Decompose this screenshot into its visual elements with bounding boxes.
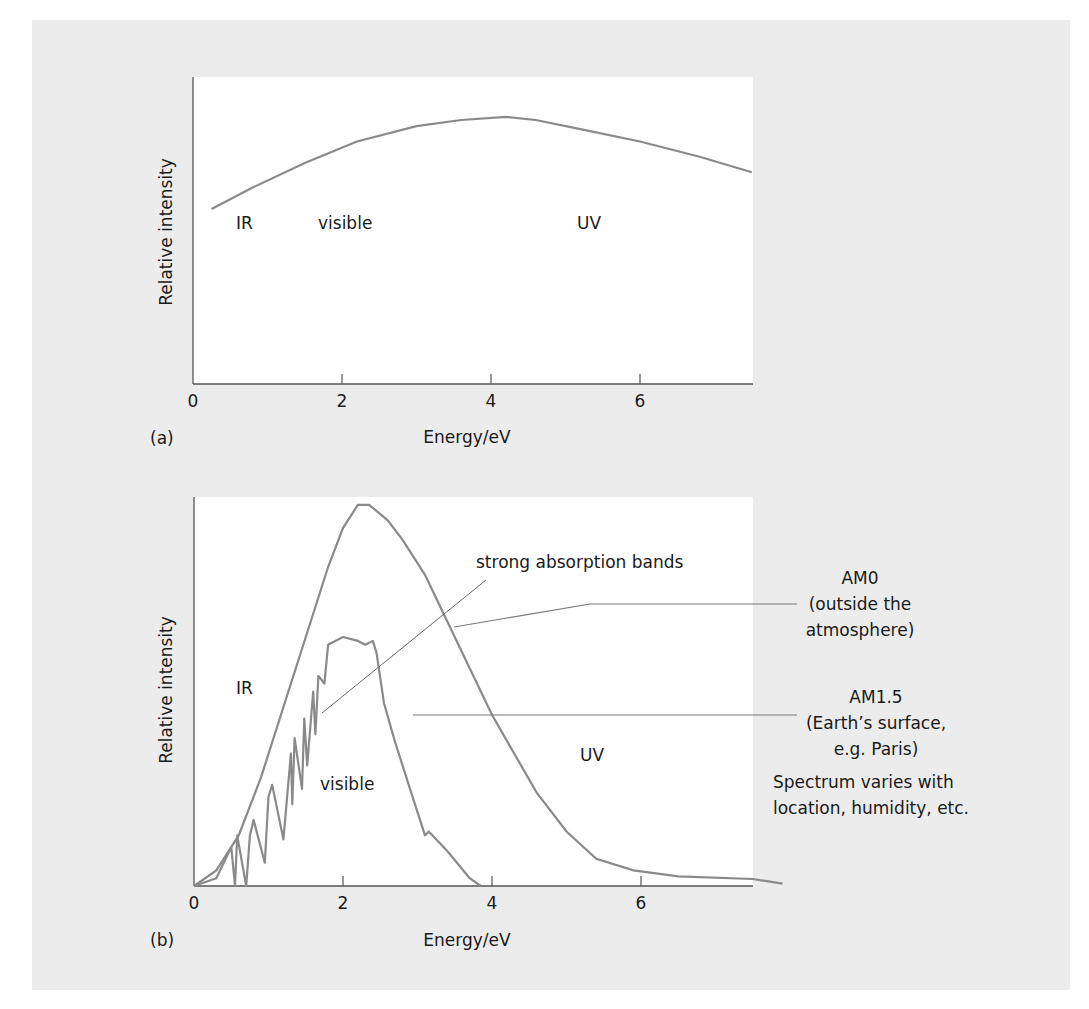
x-tick-label: 4 [486, 391, 497, 411]
am15-desc-2: e.g. Paris) [834, 739, 919, 759]
chart-a: 0246 IR visible UV Relative intensity En… [150, 77, 753, 448]
annotation-ir-b: IR [236, 678, 253, 698]
panel-label-b: (b) [150, 930, 174, 950]
annotation-visible-b: visible [320, 774, 374, 794]
note-line-2: location, humidity, etc. [773, 798, 969, 818]
panel-label-a: (a) [150, 428, 174, 448]
annotation-visible-a: visible [318, 213, 372, 233]
x-axis-label-b: Energy/eV [423, 930, 511, 950]
x-tick-label: 2 [338, 893, 349, 913]
x-tick-label: 2 [337, 391, 348, 411]
note-line-1: Spectrum varies with [773, 772, 954, 792]
am15-desc-1: (Earth’s surface, [806, 713, 946, 733]
x-tick-label: 4 [487, 893, 498, 913]
am0-desc-2: atmosphere) [806, 620, 915, 640]
plot-area-a [193, 77, 753, 384]
annotation-ir-a: IR [236, 213, 253, 233]
x-tick-label: 0 [188, 391, 199, 411]
am0-desc-1: (outside the [809, 594, 912, 614]
annotation-absorption-bands: strong absorption bands [476, 552, 683, 572]
x-tick-label: 6 [635, 391, 646, 411]
am15-label: AM1.5 [849, 687, 902, 707]
annotation-uv-b: UV [580, 745, 604, 765]
x-axis-label-a: Energy/eV [423, 427, 511, 447]
x-tick-label: 0 [189, 893, 200, 913]
am0-label: AM0 [841, 568, 878, 588]
chart-b: 0246 IR visible UV strong absorption ban… [150, 497, 969, 950]
annotation-uv-a: UV [577, 213, 601, 233]
figure: 0246 IR visible UV Relative intensity En… [0, 0, 1089, 1009]
legend-am15: AM1.5 (Earth’s surface, e.g. Paris) [806, 687, 946, 759]
y-axis-label-b: Relative intensity [156, 616, 176, 764]
legend-am0: AM0 (outside the atmosphere) [806, 568, 915, 640]
x-tick-label: 6 [636, 893, 647, 913]
y-axis-label-a: Relative intensity [156, 158, 176, 306]
